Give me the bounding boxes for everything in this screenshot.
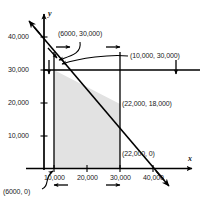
x-tick-label-40000: 40,000 xyxy=(143,174,164,181)
y-tick-label-20000: 20,000 xyxy=(8,99,29,106)
x-axis-label: x xyxy=(188,155,192,163)
x-tick-label-10000: 10,000 xyxy=(44,174,65,181)
y-tick-label-30000: 30,000 xyxy=(8,66,29,73)
graph-svg xyxy=(0,0,206,201)
x-tick-label-30000: 30,000 xyxy=(110,174,131,181)
x-tick-label-20000: 20,000 xyxy=(77,174,98,181)
diagonal-arrow-upper-left xyxy=(29,21,40,34)
y-tick-label-40000: 40,000 xyxy=(8,33,29,40)
callout-curve-top-left-vertex xyxy=(59,42,80,60)
point-label-top-right: (10,000, 30,000) xyxy=(130,52,180,59)
y-tick-label-10000: 10,000 xyxy=(8,132,29,139)
point-label-top-left-vertex: (6000, 30,000) xyxy=(58,30,102,37)
point-label-mid-right: (22,000, 18,000) xyxy=(122,100,172,107)
feasible-region-shading xyxy=(54,70,120,168)
y-axis-label: y xyxy=(48,10,51,18)
point-label-bottom-right: (22,000, 0) xyxy=(122,150,155,157)
callout-curve-top-right xyxy=(62,55,128,64)
point-label-bottom-left: (6000, 0) xyxy=(3,188,30,195)
coordinate-plane-figure: 40,000 30,000 20,000 10,000 10,000 20,00… xyxy=(0,0,206,201)
